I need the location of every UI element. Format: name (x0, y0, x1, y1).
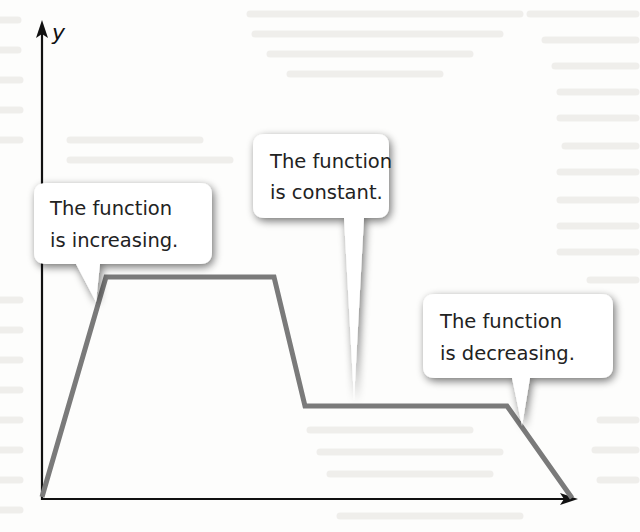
callout-increasing-line2: is increasing. (50, 229, 178, 252)
callout-constant-line1: The function (269, 150, 392, 173)
callout-decreasing-line1: The function (439, 310, 562, 333)
callout-constant-line2: is constant. (270, 181, 383, 204)
function-behavior-diagram: y The function is increasing. The functi… (0, 0, 640, 532)
callout-decreasing-line2: is decreasing. (440, 342, 575, 365)
y-axis-label: y (51, 20, 66, 45)
callout-increasing-line1: The function (49, 197, 172, 220)
callout-constant (253, 134, 389, 400)
callout-constant-bubble (253, 134, 389, 400)
